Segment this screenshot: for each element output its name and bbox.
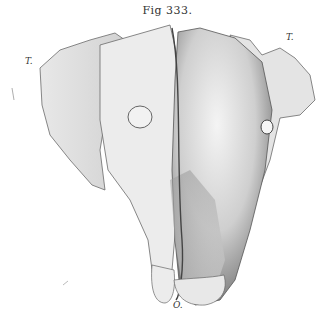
- anatomical-illustration: [0, 0, 335, 323]
- label-top-right: T.: [286, 32, 294, 42]
- stray-mark-bottom: [63, 281, 68, 285]
- right-cyst: [261, 120, 273, 134]
- left-fold: [100, 25, 178, 300]
- label-top-left: T.: [25, 56, 33, 66]
- left-cyst: [128, 106, 152, 128]
- label-bottom: O.: [173, 300, 183, 310]
- stray-mark-left: [12, 88, 14, 100]
- bottom-lobe-left: [152, 265, 175, 303]
